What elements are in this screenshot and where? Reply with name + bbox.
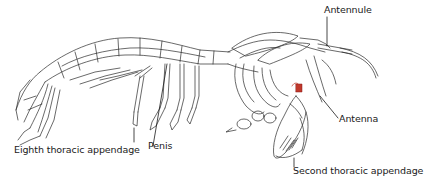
abdomen <box>40 38 230 88</box>
diagram-canvas: Antennule Antenna Eighth thoracic append… <box>0 0 427 186</box>
antenna-structure <box>306 56 336 102</box>
tail-fan <box>16 72 60 145</box>
penis-leader <box>153 64 167 146</box>
raptorial-claw <box>273 96 308 158</box>
posterior-thoracic-legs <box>133 64 199 130</box>
label-antenna: Antenna <box>339 114 378 124</box>
crustacean-drawing <box>0 0 427 186</box>
maxillipeds <box>226 64 288 132</box>
label-antennule: Antennule <box>324 5 372 15</box>
antenna-leader <box>320 96 338 118</box>
red-accent-mark <box>296 84 302 92</box>
label-eighth-thoracic-appendage: Eighth thoracic appendage <box>14 145 140 155</box>
antennule-structure <box>318 44 378 78</box>
label-penis: Penis <box>148 141 172 151</box>
label-second-thoracic-appendage: Second thoracic appendage <box>293 166 423 176</box>
